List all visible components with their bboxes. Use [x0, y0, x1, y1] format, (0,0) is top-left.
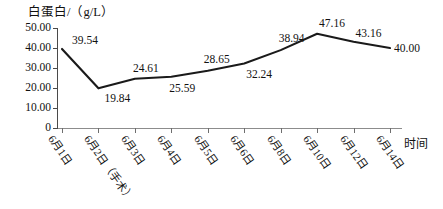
- albumin-series-line: [62, 34, 390, 89]
- albumin-line-chart: 白蛋白/（g/L） 50.0040.0030.0020.0010.000 6月1…: [0, 0, 443, 209]
- x-axis-title: 时间: [404, 134, 428, 152]
- series-line-svg: [0, 0, 443, 209]
